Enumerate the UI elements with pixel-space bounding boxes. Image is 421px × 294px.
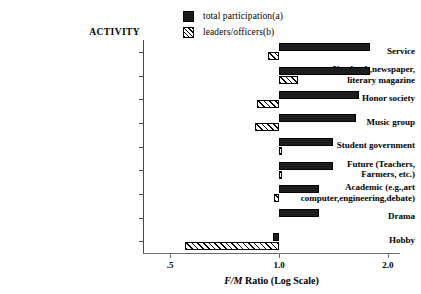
bar-leaders-officers [279, 76, 298, 84]
x-axis-line [143, 253, 400, 254]
x-axis-tick [279, 253, 280, 258]
x-axis-title-rest: Ratio (Log Scale) [242, 275, 318, 286]
legend-item-total-participation: total participation(a) [183, 9, 283, 23]
y-axis-tick [139, 52, 144, 53]
legend-label: total participation(a) [203, 11, 283, 21]
x-axis-tick [170, 253, 171, 258]
x-axis-title: F/M Ratio (Log Scale) [143, 275, 400, 286]
x-axis-tick-label: 1.0 [273, 260, 284, 270]
bar-leaders-officers [255, 123, 279, 131]
x-axis-tick-label: 2.0 [382, 260, 393, 270]
bar-total-participation [279, 185, 319, 193]
bar-leaders-officers [185, 242, 279, 250]
bar-total-participation [279, 162, 333, 170]
y-axis-tick [139, 76, 144, 77]
activity-axis-header: ACTIVITY [0, 27, 140, 37]
bar-leaders-officers [257, 100, 279, 108]
y-axis-tick [139, 218, 144, 219]
solid-square-icon [183, 11, 194, 22]
bar-total-participation [273, 233, 279, 241]
y-axis-category-label: Hobby [279, 235, 421, 246]
chart-legend: total participation(a) leaders/officers(… [183, 9, 283, 41]
bar-total-participation [279, 67, 370, 75]
chart-figure: total participation(a) leaders/officers(… [0, 0, 421, 294]
y-axis-tick [139, 194, 144, 195]
hatched-square-icon [183, 27, 194, 38]
bar-total-participation [279, 209, 319, 217]
bar-leaders-officers [274, 194, 279, 202]
bar-total-participation [279, 91, 359, 99]
legend-item-leaders-officers: leaders/officers(b) [183, 25, 283, 39]
x-axis-tick [388, 253, 389, 258]
y-axis-tick [139, 147, 144, 148]
legend-label: leaders/officers(b) [203, 27, 274, 37]
y-axis-tick [139, 241, 144, 242]
bar-leaders-officers [279, 171, 282, 179]
x-axis-title-italic: F/M [224, 275, 242, 286]
bar-leaders-officers [279, 147, 282, 155]
y-axis-tick [139, 170, 144, 171]
bar-total-participation [279, 43, 370, 51]
bar-leaders-officers [268, 52, 279, 60]
y-axis-tick [139, 99, 144, 100]
y-axis-tick [139, 123, 144, 124]
bar-total-participation [279, 114, 356, 122]
x-axis-tick-label: .5 [167, 260, 174, 270]
bar-total-participation [279, 138, 333, 146]
